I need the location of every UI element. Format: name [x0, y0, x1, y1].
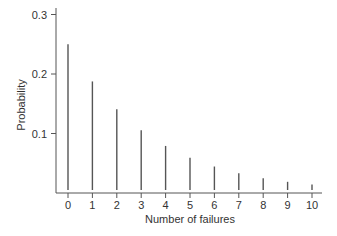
x-tick-label: 2	[114, 199, 120, 211]
y-tick-label: 0.3	[32, 9, 47, 21]
x-tick-label: 4	[163, 199, 169, 211]
axes: 0.10.20.3012345678910	[32, 8, 322, 211]
x-tick-label: 0	[65, 199, 71, 211]
bars	[68, 44, 312, 190]
y-tick-label: 0.1	[32, 128, 47, 140]
y-axis-title: Probability	[15, 79, 27, 131]
x-tick-label: 5	[187, 199, 193, 211]
x-tick-label: 1	[89, 199, 95, 211]
chart: 0.10.20.3012345678910 Number of failures…	[0, 0, 337, 236]
x-tick-label: 6	[211, 199, 217, 211]
x-tick-label: 7	[236, 199, 242, 211]
x-tick-label: 8	[260, 199, 266, 211]
x-axis-title: Number of failures	[145, 213, 235, 225]
x-tick-label: 10	[306, 199, 318, 211]
y-tick-label: 0.2	[32, 68, 47, 80]
x-tick-label: 3	[138, 199, 144, 211]
x-tick-label: 9	[285, 199, 291, 211]
